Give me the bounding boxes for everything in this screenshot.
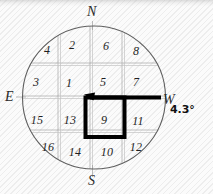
grid-cell-number[interactable]: 5 — [100, 76, 106, 88]
grid-cell-number[interactable]: 8 — [133, 45, 139, 57]
grid-cell-number[interactable]: 12 — [130, 141, 142, 153]
grid-cell-number[interactable]: 1 — [66, 77, 72, 89]
grid-cell-number[interactable]: 4 — [44, 44, 50, 56]
grid-cell-number[interactable]: 11 — [132, 115, 144, 127]
grid-cell-number[interactable]: 2 — [69, 39, 75, 51]
figure-canvas: N S E W 4.3° 42683157151391116141012 — [0, 0, 213, 194]
grid-cell-number[interactable]: 6 — [103, 40, 109, 52]
grid-cell-number[interactable]: 7 — [133, 76, 139, 88]
grid-cell-number[interactable]: 13 — [64, 114, 76, 126]
compass-label-east: E — [5, 90, 14, 104]
grid-cell-number[interactable]: 16 — [42, 141, 54, 153]
grid-cell-number[interactable]: 3 — [33, 76, 39, 88]
grid-cell-number[interactable]: 10 — [101, 146, 113, 158]
grid-cell-number[interactable]: 14 — [69, 146, 81, 158]
bearing-annotation: 4.3° — [170, 104, 195, 115]
compass-label-south: S — [88, 174, 95, 188]
grid-cell-number[interactable]: 9 — [101, 114, 107, 126]
compass-label-north: N — [87, 5, 96, 19]
grid-cell-number[interactable]: 15 — [31, 114, 43, 126]
compass-grid-svg — [0, 0, 213, 194]
